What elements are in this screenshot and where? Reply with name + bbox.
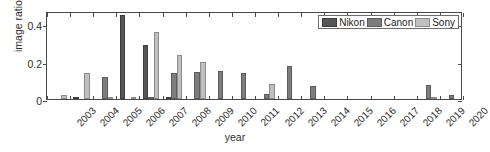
x-tick-top (116, 13, 117, 17)
x-tick-label: 2005 (120, 105, 144, 129)
bar-sony-2008 (177, 55, 183, 99)
x-tick-label: 2013 (305, 105, 329, 129)
x-tick-label: 2017 (398, 105, 422, 129)
x-tick (371, 96, 372, 100)
y-tick-label: 0.2 (27, 58, 42, 70)
bar-sony-2007 (154, 32, 160, 99)
x-tick (139, 96, 140, 100)
x-tick (417, 96, 418, 100)
x-tick-label: 2011 (259, 105, 282, 128)
x-tick-label: 2009 (213, 105, 237, 129)
bar-sony-2012 (269, 84, 275, 99)
x-tick-top (70, 13, 71, 17)
x-tick-label: 2010 (236, 105, 260, 129)
y-tick (43, 101, 47, 102)
x-tick-label: 2004 (97, 105, 121, 129)
legend-item-canon[interactable]: Canon (367, 18, 413, 27)
x-tick-label: 2014 (328, 105, 352, 129)
bar-canon-2011 (241, 73, 247, 99)
x-tick-top (139, 13, 140, 17)
x-tick-label: 2006 (143, 105, 167, 129)
x-tick-label: 2015 (351, 105, 375, 129)
y-tick-label: 0.4 (27, 20, 42, 32)
y-tick-label: 0 (36, 95, 42, 107)
bar-canon-2014 (310, 86, 316, 99)
x-tick-top (463, 13, 464, 17)
bar-canon-2010 (218, 71, 224, 99)
legend-label-sony: Sony (432, 18, 455, 27)
x-tick-label: 2016 (375, 105, 399, 129)
legend-swatch-canon (367, 18, 382, 27)
x-tick-top (301, 13, 302, 17)
bar-sony-2006 (131, 97, 137, 99)
legend-item-sony[interactable]: Sony (415, 18, 455, 27)
bar-sony-2019 (431, 97, 437, 99)
x-tick-top (255, 13, 256, 17)
plot-area: 00.20.4 20032004200520062007200820092010… (46, 12, 462, 100)
x-tick-top (47, 13, 48, 17)
x-tick (301, 96, 302, 100)
legend-swatch-sony (415, 18, 430, 27)
y-tick-right (458, 101, 462, 102)
x-tick-label: 2003 (74, 105, 98, 129)
x-tick (232, 96, 233, 100)
x-tick (440, 96, 441, 100)
x-tick (255, 96, 256, 100)
chart-legend[interactable]: Nikon Canon Sony (318, 15, 459, 29)
x-tick-label: 2007 (167, 105, 191, 129)
x-tick (278, 96, 279, 100)
bar-nikon-2007 (143, 45, 149, 99)
bar-sony-2005 (108, 97, 114, 99)
legend-label-canon: Canon (384, 18, 413, 27)
x-tick-top (278, 13, 279, 17)
bar-canon-2013 (287, 66, 293, 99)
bar-canon-2020 (449, 95, 455, 99)
bar-sony-2003 (61, 95, 67, 99)
x-tick (116, 96, 117, 100)
x-axis-label: year (0, 131, 470, 143)
x-tick-top (93, 13, 94, 17)
x-tick (47, 96, 48, 100)
y-tick (43, 26, 47, 27)
x-tick (463, 96, 464, 100)
bar-nikon-2006 (120, 15, 126, 99)
bar-sony-2009 (200, 62, 206, 99)
x-tick-label: 2012 (282, 105, 306, 129)
bar-nikon-2004 (73, 97, 79, 99)
x-tick (93, 96, 94, 100)
x-tick (70, 96, 71, 100)
legend-item-nikon[interactable]: Nikon (322, 18, 365, 27)
y-tick (43, 64, 47, 65)
legend-swatch-nikon (322, 18, 337, 27)
x-tick (209, 96, 210, 100)
bar-canon-2005 (102, 77, 108, 99)
x-tick-top (209, 13, 210, 17)
x-tick (394, 96, 395, 100)
x-tick-label: 2008 (190, 105, 214, 129)
x-tick (186, 96, 187, 100)
x-tick-label: 2019 (444, 105, 468, 129)
x-tick-label: 2018 (421, 105, 445, 129)
x-tick (163, 96, 164, 100)
x-tick-top (232, 13, 233, 17)
x-tick-top (163, 13, 164, 17)
x-tick-label: 2020 (467, 105, 490, 129)
legend-label-nikon: Nikon (339, 18, 365, 27)
x-tick (347, 96, 348, 100)
x-tick (324, 96, 325, 100)
x-tick-top (186, 13, 187, 17)
y-axis-label: image ratio (12, 0, 28, 72)
y-tick-right (458, 64, 462, 65)
bar-sony-2004 (84, 73, 90, 99)
